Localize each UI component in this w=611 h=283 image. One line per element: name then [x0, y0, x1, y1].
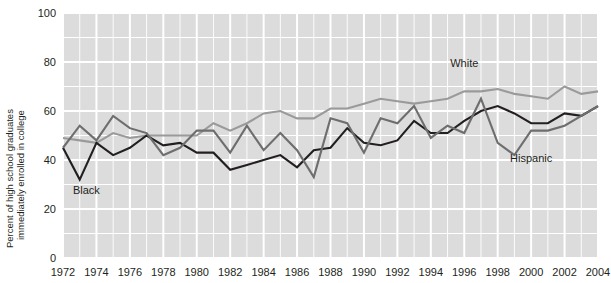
x-tick-label: 1982: [218, 266, 242, 278]
x-tick-label: 2004: [586, 266, 610, 278]
x-axis-tick-labels: 1972197419761978198019821984198619881990…: [51, 266, 610, 278]
x-tick-label: 1998: [485, 266, 509, 278]
y-axis-title-line-1: Percent of high school graduates: [4, 109, 15, 248]
y-tick-label: 40: [44, 154, 56, 166]
y-axis-title: Percent of high school graduates immedia…: [4, 109, 26, 248]
x-tick-label: 1976: [118, 266, 142, 278]
y-tick-label: 60: [44, 105, 56, 117]
x-tick-label: 1986: [285, 266, 309, 278]
series-label-white: White: [450, 57, 478, 69]
x-tick-label: 1992: [385, 266, 409, 278]
x-tick-label: 1972: [51, 266, 75, 278]
x-tick-label: 1990: [352, 266, 376, 278]
x-tick-label: 1984: [251, 266, 275, 278]
x-tick-label: 1994: [419, 266, 443, 278]
y-tick-label: 80: [44, 56, 56, 68]
x-tick-label: 1974: [84, 266, 108, 278]
line-chart: 020406080100 197219741976197819801982198…: [0, 0, 611, 283]
y-tick-label: 100: [38, 7, 56, 19]
series-label-hispanic: Hispanic: [510, 152, 553, 164]
x-tick-label: 1978: [151, 266, 175, 278]
x-tick-label: 1980: [185, 266, 209, 278]
y-axis-title-line-2: immediately enrolled in college: [15, 110, 26, 240]
series-label-black: Black: [73, 184, 100, 196]
chart-container: 020406080100 197219741976197819801982198…: [0, 0, 611, 283]
x-tick-label: 1996: [452, 266, 476, 278]
y-axis-tick-labels: 020406080100: [38, 7, 56, 264]
x-tick-label: 2002: [552, 266, 576, 278]
y-tick-label: 0: [50, 252, 56, 264]
x-tick-label: 1988: [318, 266, 342, 278]
y-tick-label: 20: [44, 203, 56, 215]
x-tick-label: 2000: [519, 266, 543, 278]
